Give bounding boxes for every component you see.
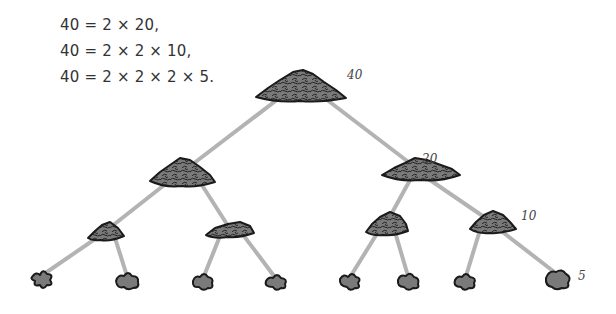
label-5: 5 [578,269,586,283]
leaf-4 [266,275,286,290]
pile-20-left [150,158,215,187]
leaf-1 [31,271,51,288]
leaf-6 [398,274,419,290]
pile-40 [256,70,346,102]
leaf-3 [193,274,213,290]
pile-20-right [382,158,460,180]
pile-l2-c [366,212,408,235]
label-40: 40 [346,68,363,82]
leaf-5 [340,274,360,290]
label-10: 10 [521,209,537,223]
pile-l2-a [88,222,124,241]
leaf-2 [116,273,138,289]
tree-branches [44,96,553,276]
leaf-8 [546,270,570,289]
label-20: 20 [421,152,438,166]
leaf-7 [455,274,475,290]
pile-l2-b [206,222,254,238]
factor-tree-diagram: 40 20 10 5 [0,0,616,314]
